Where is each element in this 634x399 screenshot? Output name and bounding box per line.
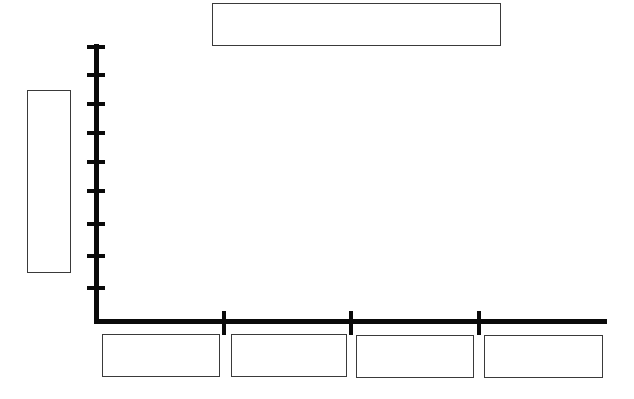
y-tick xyxy=(87,286,105,290)
y-tick xyxy=(87,45,105,49)
y-tick xyxy=(87,102,105,106)
category-label-box-3[interactable] xyxy=(356,335,474,378)
y-axis-line xyxy=(94,44,99,324)
y-tick xyxy=(87,131,105,135)
y-axis-label-box[interactable] xyxy=(27,90,71,273)
y-tick xyxy=(87,189,105,193)
chart-title-box[interactable] xyxy=(212,3,501,46)
x-tick xyxy=(349,311,353,335)
y-tick xyxy=(87,160,105,164)
x-tick xyxy=(477,311,481,335)
y-tick xyxy=(87,254,105,258)
y-tick xyxy=(87,222,105,226)
category-label-box-2[interactable] xyxy=(231,334,347,377)
y-tick xyxy=(87,73,105,77)
category-label-box-1[interactable] xyxy=(102,334,220,377)
category-label-box-4[interactable] xyxy=(484,335,603,378)
x-tick xyxy=(222,311,226,335)
